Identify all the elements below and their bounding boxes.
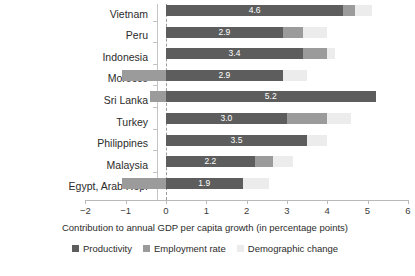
bar-row: 4.6 [0, 5, 410, 16]
bar-segment-employment-rate [122, 70, 166, 81]
bar-value-label: 3.0 [166, 113, 287, 124]
bar-row: 3.0 [0, 113, 410, 124]
x-axis-title: Contribution to annual GDP per capita gr… [0, 222, 410, 233]
legend-label: Employment rate [154, 243, 226, 254]
x-tick [206, 200, 207, 204]
x-tick-label: 4 [315, 205, 339, 216]
category-tick [153, 129, 158, 130]
bar-segment-employment-rate [283, 27, 303, 38]
x-tick-label: 6 [396, 205, 415, 216]
category-tick [153, 64, 158, 65]
legend-swatch [72, 245, 79, 252]
bar-value-label: 4.6 [166, 5, 343, 16]
bar-value-label: 1.9 [166, 178, 243, 189]
bar-value-label: 2.9 [166, 27, 283, 38]
x-tick [287, 200, 288, 204]
x-tick [85, 200, 86, 204]
category-tick [153, 42, 158, 43]
bar-value-label: 2.2 [166, 156, 255, 167]
x-tick-label: 2 [235, 205, 259, 216]
x-tick [368, 200, 369, 204]
bar-value-label: 2.9 [166, 70, 283, 81]
bar-row: 3.5 [0, 135, 410, 146]
bar-segment-demographic-change [355, 5, 371, 16]
x-tick-label: −2 [73, 205, 97, 216]
bar-row: 2.2 [0, 156, 410, 167]
category-tick [153, 172, 158, 173]
legend-item[interactable]: Demographic change [237, 243, 338, 254]
bar-segment-employment-rate [122, 178, 166, 189]
legend-label: Demographic change [248, 243, 338, 254]
bar-segment-demographic-change [307, 135, 327, 146]
legend-swatch [143, 245, 150, 252]
x-tick-label: −1 [114, 205, 138, 216]
bar-segment-demographic-change [243, 178, 269, 189]
x-tick-label: 5 [356, 205, 380, 216]
x-tick [247, 200, 248, 204]
bar-row: 2.9 [0, 27, 410, 38]
bar-segment-employment-rate [343, 5, 355, 16]
bar-row: 1.9 [0, 178, 410, 189]
chart-legend: ProductivityEmployment rateDemographic c… [0, 243, 410, 254]
x-tick [126, 200, 127, 204]
x-tick [327, 200, 328, 204]
x-tick [408, 200, 409, 204]
category-tick [153, 21, 158, 22]
legend-label: Productivity [83, 243, 132, 254]
legend-item[interactable]: Employment rate [143, 243, 226, 254]
bar-value-label: 3.5 [166, 135, 307, 146]
bar-row: 2.9 [0, 70, 410, 81]
bar-segment-demographic-change [273, 156, 293, 167]
x-tick-label: 3 [275, 205, 299, 216]
bar-row: 5.2 [0, 91, 410, 102]
bar-segment-demographic-change [327, 48, 335, 59]
bar-segment-employment-rate [287, 113, 327, 124]
legend-swatch [237, 245, 244, 252]
bar-row: 3.4 [0, 48, 410, 59]
category-tick [153, 85, 158, 86]
bar-value-label: 5.2 [166, 91, 376, 102]
bar-value-label: 3.4 [166, 48, 303, 59]
x-tick-label: 1 [194, 205, 218, 216]
bar-segment-demographic-change [283, 70, 307, 81]
x-tick [166, 200, 167, 204]
bar-segment-employment-rate [255, 156, 273, 167]
bar-segment-employment-rate [303, 48, 327, 59]
bar-segment-employment-rate [150, 91, 166, 102]
category-tick [153, 150, 158, 151]
bar-segment-demographic-change [327, 113, 351, 124]
legend-item[interactable]: Productivity [72, 243, 132, 254]
bar-segment-demographic-change [303, 27, 327, 38]
category-tick [153, 107, 158, 108]
x-tick-label: 0 [154, 205, 178, 216]
